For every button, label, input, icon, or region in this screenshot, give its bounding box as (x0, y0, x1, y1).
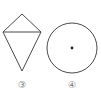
circle-center-dot (71, 47, 74, 50)
figure-label-4: ④ (65, 81, 79, 90)
figure-label-3: ③ (15, 81, 29, 90)
circle-figure (47, 23, 97, 73)
kite-outline (3, 14, 41, 71)
figures-canvas (0, 0, 101, 91)
kite-figure (3, 14, 41, 71)
